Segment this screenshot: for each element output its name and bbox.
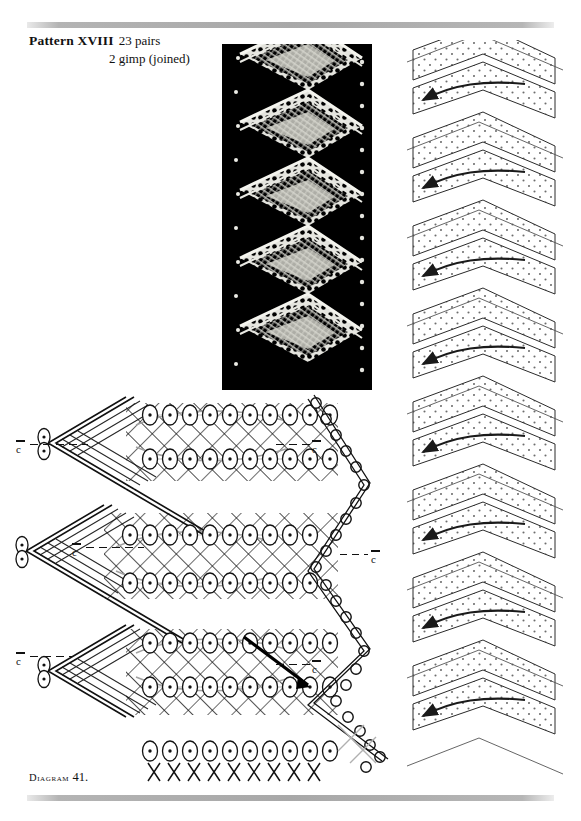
guide-dash-left-1 <box>30 444 88 445</box>
guide-bar-icon <box>16 652 25 654</box>
guide-bar-icon <box>72 543 81 545</box>
guide-bar-icon <box>371 550 380 552</box>
guide-dash-right-2 <box>340 554 368 555</box>
top-rule <box>27 22 554 28</box>
guide-bar-icon <box>312 440 321 442</box>
pricking-diagram <box>405 40 581 780</box>
guide-dash-left-3 <box>30 656 72 657</box>
guide-mark-label: c <box>312 443 317 455</box>
guide-bar-icon <box>16 440 25 442</box>
caption-number: 41. <box>72 770 88 784</box>
caption-prefix: Diagram <box>29 772 69 783</box>
page-canvas: Pattern XVIII23 pairs 2 gimp (joined) <box>0 0 581 821</box>
guide-dash-right-1 <box>276 444 312 445</box>
guide-mark-label: c <box>371 553 376 565</box>
guide-bar-icon <box>312 660 321 662</box>
guide-mark-label: c <box>72 546 77 558</box>
bottom-rule <box>27 795 554 801</box>
heading-line-1: Pattern XVIII23 pairs <box>29 31 190 50</box>
figure-caption: Diagram 41. <box>29 770 88 785</box>
working-diagram <box>8 385 408 785</box>
pattern-label: Pattern XVIII <box>29 33 114 48</box>
photograph-artwork <box>222 44 372 390</box>
working-diagram-artwork <box>8 385 408 785</box>
page-heading: Pattern XVIII23 pairs 2 gimp (joined) <box>29 31 190 66</box>
guide-mark-c-left-3: c <box>16 652 25 667</box>
guide-dash-right-3 <box>276 664 312 665</box>
gimp-note: 2 gimp (joined) <box>109 51 190 66</box>
guide-mark-label: c <box>16 443 21 455</box>
pairs-count: 23 pairs <box>119 33 161 48</box>
guide-mark-c-right-1: c <box>312 440 321 455</box>
pin-row-foot <box>143 741 338 761</box>
pricking-artwork <box>405 40 581 780</box>
guide-dash-left-2 <box>86 547 144 548</box>
guide-mark-label: c <box>312 663 317 675</box>
lace-sample-photograph <box>222 44 372 390</box>
guide-mark-c-right-3: c <box>312 660 321 675</box>
guide-mark-c-right-2: c <box>371 550 380 565</box>
guide-mark-c-left-1: c <box>16 440 25 455</box>
guide-mark-label: c <box>16 655 21 667</box>
guide-mark-c-left-2: c <box>72 543 81 558</box>
